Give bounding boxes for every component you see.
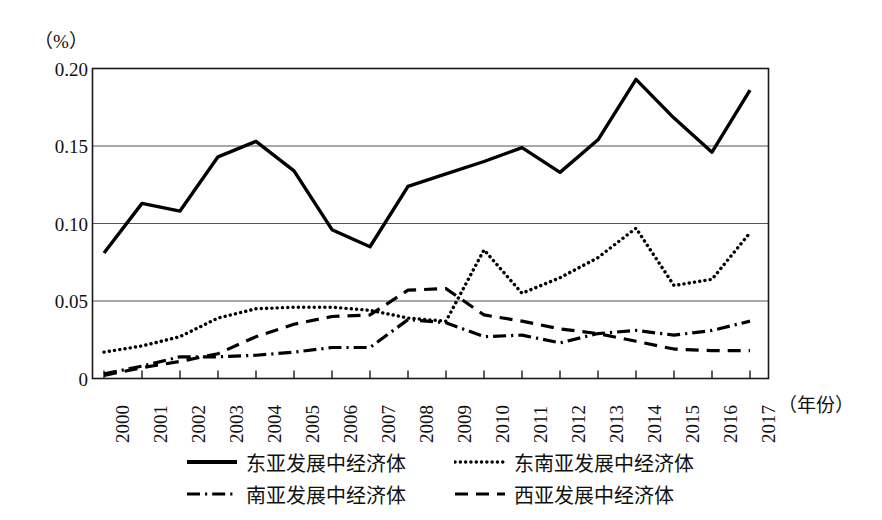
legend-swatch-dashed bbox=[454, 487, 506, 501]
legend-label: 东南亚发展中经济体 bbox=[514, 448, 694, 477]
legend-label: 东亚发展中经济体 bbox=[246, 448, 406, 477]
legend-label: 西亚发展中经济体 bbox=[514, 480, 674, 509]
x-axis-tick-label: 2000 bbox=[113, 405, 132, 443]
x-axis-tick-label: 2015 bbox=[683, 405, 702, 443]
x-axis-tick-label: 2006 bbox=[341, 405, 360, 443]
x-axis-tick-label: 2014 bbox=[645, 405, 664, 443]
x-axis-tick-label: 2009 bbox=[455, 405, 474, 443]
x-axis-tick-label: 2003 bbox=[227, 405, 246, 443]
series-line bbox=[104, 79, 750, 253]
legend-swatch-dotted bbox=[454, 455, 506, 469]
legend-swatch-solid bbox=[186, 455, 238, 469]
x-axis-tick-label: 2010 bbox=[493, 405, 512, 443]
x-axis-tick-label: 2007 bbox=[379, 405, 398, 443]
x-axis-tick-label: 2013 bbox=[607, 405, 626, 443]
x-axis-tick-label: 2012 bbox=[569, 405, 588, 443]
x-axis-tick-label: 2004 bbox=[265, 405, 284, 443]
legend-item[interactable]: 南亚发展中经济体 bbox=[186, 480, 454, 509]
x-axis-title: （年份） bbox=[778, 390, 854, 417]
legend-item[interactable]: 东亚发展中经济体 bbox=[186, 448, 454, 477]
chart-figure: （%） 00.050.100.150.20 200020012002200320… bbox=[0, 0, 882, 520]
legend-swatch-dashdot bbox=[186, 487, 238, 501]
legend-item[interactable]: 东南亚发展中经济体 bbox=[454, 448, 744, 477]
legend-label: 南亚发展中经济体 bbox=[246, 480, 406, 509]
x-axis-tick-label: 2011 bbox=[531, 406, 550, 443]
data-series-layer bbox=[104, 79, 750, 375]
chart-legend: 东亚发展中经济体东南亚发展中经济体南亚发展中经济体西亚发展中经济体 bbox=[186, 446, 746, 510]
x-axis-tick-label: 2002 bbox=[189, 405, 208, 443]
x-axis-tick-marks bbox=[104, 371, 750, 379]
x-axis-tick-label: 2001 bbox=[151, 405, 170, 443]
x-axis-tick-label: 2005 bbox=[303, 405, 322, 443]
x-axis-tick-label: 2008 bbox=[417, 405, 436, 443]
legend-item[interactable]: 西亚发展中经济体 bbox=[454, 480, 744, 509]
x-axis-tick-label: 2017 bbox=[759, 405, 778, 443]
x-axis-tick-label: 2016 bbox=[721, 405, 740, 443]
